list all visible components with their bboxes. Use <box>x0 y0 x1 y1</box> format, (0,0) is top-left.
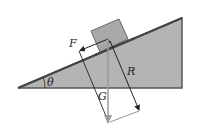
angle-label: θ <box>47 76 54 89</box>
force-r-label: R <box>126 65 135 78</box>
force-g-label: G <box>98 90 107 103</box>
force-f-label: F <box>68 37 77 50</box>
construction-line-bottom <box>110 111 139 122</box>
incline-force-diagram: θ F G R <box>0 0 198 130</box>
